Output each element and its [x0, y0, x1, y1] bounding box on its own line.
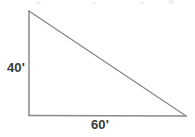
- horizontal-leg-line: [29, 116, 186, 117]
- horizontal-leg-dimension-label: 60': [91, 118, 109, 132]
- vertical-leg-dimension-label: 40': [7, 61, 25, 75]
- hypotenuse-line: [29, 11, 186, 116]
- triangle-figure: 40' 60': [0, 0, 195, 137]
